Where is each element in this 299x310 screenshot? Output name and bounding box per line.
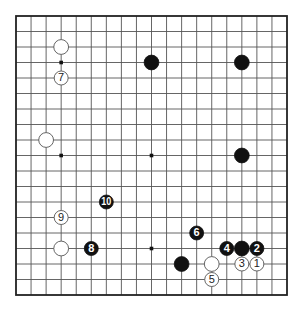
- move-number: 3: [239, 257, 245, 269]
- move-number: 8: [88, 242, 94, 254]
- black-stone-icon: [234, 55, 249, 70]
- white-stone-icon: [204, 257, 219, 272]
- black-stone: [234, 148, 249, 163]
- numbered-black-stone: 2: [250, 242, 264, 256]
- move-number: 6: [194, 226, 200, 238]
- white-stone-icon: [39, 133, 54, 148]
- move-number: 9: [58, 211, 64, 223]
- white-stone-icon: [54, 40, 69, 55]
- white-stone: [54, 40, 69, 55]
- move-number: 1: [254, 257, 260, 269]
- numbered-black-stone: 8: [84, 242, 98, 256]
- numbered-black-stone: 6: [190, 226, 204, 240]
- black-stone-icon: [234, 148, 249, 163]
- move-number: 2: [254, 242, 260, 254]
- numbered-white-stone: 7: [54, 71, 68, 85]
- black-stone-icon: [144, 55, 159, 70]
- numbered-black-stone: 4: [220, 242, 234, 256]
- white-stone-icon: [54, 241, 69, 256]
- go-board: 12345678910: [0, 0, 299, 310]
- black-stone: [174, 257, 189, 272]
- numbered-white-stone: 9: [54, 211, 68, 225]
- move-number: 5: [209, 273, 215, 285]
- black-stone: [234, 241, 249, 256]
- star-point-icon: [150, 154, 154, 158]
- numbered-white-stone: 5: [205, 273, 219, 287]
- numbered-black-stone: 10: [99, 195, 113, 209]
- black-stone-icon: [174, 257, 189, 272]
- white-stone: [204, 257, 219, 272]
- move-number: 10: [101, 195, 111, 207]
- move-number: 4: [224, 242, 231, 254]
- move-number: 7: [58, 71, 64, 83]
- white-stone: [54, 241, 69, 256]
- star-point-icon: [150, 247, 154, 251]
- numbered-white-stone: 3: [235, 257, 249, 271]
- star-point-icon: [59, 154, 63, 158]
- black-stone-icon: [234, 241, 249, 256]
- black-stone: [144, 55, 159, 70]
- black-stone: [234, 55, 249, 70]
- star-point-icon: [59, 61, 63, 65]
- white-stone: [39, 133, 54, 148]
- numbered-white-stone: 1: [250, 257, 264, 271]
